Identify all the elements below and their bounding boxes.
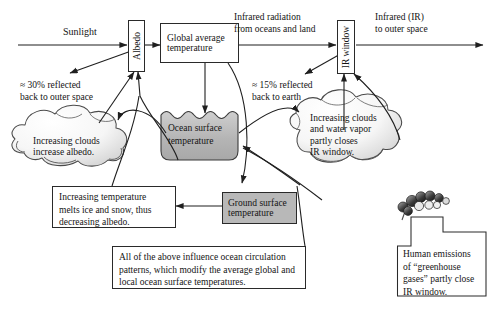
label-reflected-outer-space: ≈ 30% reflected back to outer space [20,79,93,104]
node-ir-window-label: IR window [341,26,351,69]
node-ocean-line1: Ocean surface [168,122,238,135]
line-ocean-circulation-connector [297,186,305,246]
label-infrared-radiation: Infrared radiation from oceans and land [234,12,316,36]
node-ground-line1: Ground surface [228,198,287,208]
label-reflected-earth-line2: back to earth [252,91,313,103]
label-reflected-space-line1: ≈ 30% reflected [20,79,93,91]
node-ground-line2: temperature [228,208,287,218]
textbox-ocean-circulation-line1: All of the above influence ocean circula… [119,251,300,264]
cloud-right-text: Increasing clouds and water vapor partly… [310,113,377,159]
label-reflected-earth-line1: ≈ 15% reflected [252,79,313,91]
node-ground-surface-temperature[interactable]: Ground surface temperature [222,192,297,224]
cloud-left-line1: Increasing clouds [33,136,100,147]
textbox-ocean-circulation[interactable]: All of the above influence ocean circula… [112,246,306,289]
node-ocean-surface-temperature[interactable]: Ocean surface temperature [168,122,238,148]
textbox-human-emissions-line1: Human emissions [403,248,485,261]
node-albedo[interactable]: Albedo [128,20,145,72]
textbox-albedo-feedback[interactable]: Increasing temperature melts ice and sno… [52,186,176,228]
label-ir-outer-space-line2: to outer space [375,24,428,36]
textbox-human-emissions[interactable]: Human emissions of “greenhouse gases” pa… [403,248,485,298]
textbox-albedo-feedback-line3: decreasing albedo. [59,216,170,229]
node-global-average-temperature[interactable]: Global average temperature [160,23,239,63]
node-ocean-line2: temperature [168,135,238,148]
arrow-clouds-to-albedo [99,72,134,123]
cloud-right-line2: and water vapor [310,124,377,135]
label-reflected-back-to-earth: ≈ 15% reflected back to earth [252,79,313,104]
arrow-ocean-to-left-cloud [118,110,166,133]
cloud-left-text: Increasing clouds increase albedo. [33,136,100,159]
cloud-right-line4: IR window. [310,147,377,158]
textbox-albedo-feedback-line1: Increasing temperature [59,191,170,204]
node-albedo-label: Albedo [132,32,142,60]
textbox-human-emissions-line2: of “greenhouse [403,261,485,274]
label-infrared-to-outer-space: Infrared (IR) to outer space [375,12,428,36]
label-infrared-radiation-line1: Infrared radiation [234,12,316,24]
label-reflected-space-line2: back to outer space [20,91,93,103]
diagram-canvas: Sunlight Albedo Global average temperatu… [0,0,490,318]
node-global-temp-line2: temperature [167,43,225,53]
cloud-right-line3: partly closes [310,136,377,147]
label-infrared-radiation-line2: from oceans and land [234,24,316,36]
textbox-ocean-circulation-line3: local ocean surface temperatures. [119,276,300,289]
textbox-human-emissions-line4: IR window. [403,286,485,299]
smoke-plume-icon [398,191,449,220]
cloud-right-line1: Increasing clouds [310,113,377,124]
textbox-ocean-circulation-line2: patterns, which modify the average globa… [119,264,300,277]
cloud-left-line2: increase albedo. [33,147,100,158]
textbox-albedo-feedback-line2: melts ice and snow, thus [59,204,170,217]
arrow-reflected-outer-space [70,50,134,73]
textbox-human-emissions-line3: gases” partly close [403,273,485,286]
node-global-temp-line1: Global average [167,33,225,43]
node-ir-window[interactable]: IR window [337,20,355,74]
arrow-right-to-ocean-a [243,146,300,185]
label-sunlight: Sunlight [63,26,97,37]
label-ir-outer-space-line1: Infrared (IR) [375,12,428,24]
